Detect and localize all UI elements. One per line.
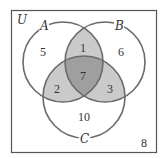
region-outside: 8 [141, 136, 147, 150]
region-a-c: 2 [54, 82, 60, 96]
set-b-label: B [114, 19, 124, 33]
region-a-only: 5 [40, 45, 46, 59]
universe-label: U [17, 13, 28, 27]
set-c-label: C [80, 132, 89, 146]
region-b-c: 3 [107, 82, 113, 96]
set-a-label: A [39, 19, 49, 33]
region-b-only: 6 [118, 45, 124, 59]
region-a-b-c: 7 [80, 69, 86, 83]
venn-diagram: U A B C 5 6 1 7 2 3 10 8 [0, 0, 164, 159]
region-a-b: 1 [80, 41, 86, 55]
region-c-only: 10 [78, 110, 90, 124]
